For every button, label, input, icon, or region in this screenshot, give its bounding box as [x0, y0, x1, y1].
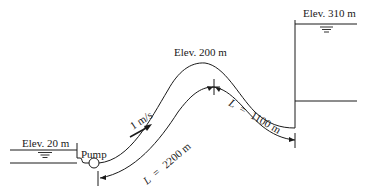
right-reservoir: [295, 20, 357, 128]
pipeline-diagram: Elev. 20 m Pump Elev. 200 m Elev. 310 m …: [0, 0, 369, 193]
segment-2-length-value: 1100 m: [249, 109, 284, 136]
segment-1-length-value: 2200 m: [160, 140, 194, 171]
segment-1-length-var: L: [140, 173, 153, 187]
segment-2-length-eq: =: [237, 102, 248, 116]
segment-2-length-var: L: [226, 96, 238, 110]
dimension-line: [100, 87, 295, 178]
water-surface-icon: [38, 153, 52, 158]
pipeline: [99, 63, 295, 163]
water-surface-icon: [320, 27, 333, 32]
arrowhead-icon: [215, 87, 221, 92]
right-elevation-label: Elev. 310 m: [303, 7, 356, 19]
pump-label: Pump: [81, 148, 107, 160]
velocity-label: 1 m/s: [128, 108, 155, 131]
high-point-elevation-label: Elev. 200 m: [174, 46, 227, 58]
left-elevation-label: Elev. 20 m: [22, 137, 70, 149]
segment-1-length-eq: =: [150, 166, 162, 179]
